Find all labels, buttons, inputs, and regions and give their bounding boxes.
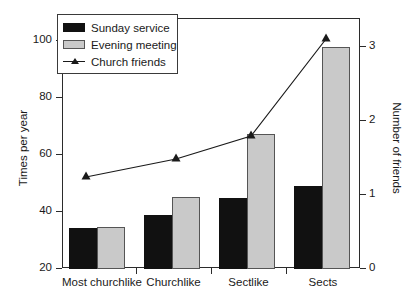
legend-label: Evening meeting bbox=[91, 39, 177, 51]
y-axis-right-tick-label: 0 bbox=[369, 262, 399, 274]
y-axis-right-tick bbox=[360, 46, 366, 47]
church-attendance-chart: Times per year Number of friends 100 80 … bbox=[0, 0, 417, 306]
y-axis-right-tick bbox=[360, 120, 366, 121]
x-axis-category-label: Churchlike bbox=[136, 276, 211, 288]
y-axis-right-tick-label: 3 bbox=[369, 40, 399, 52]
y-axis-left-tick-label: 60 bbox=[16, 148, 52, 160]
legend-label: Sunday service bbox=[91, 22, 170, 34]
y-axis-left-tick bbox=[56, 268, 62, 269]
bar-sunday-service bbox=[69, 228, 97, 269]
legend-item-evening-meeting: Evening meeting bbox=[63, 36, 172, 53]
y-axis-right-tick bbox=[360, 268, 366, 269]
x-axis-category-label: Most churchlike bbox=[62, 276, 136, 288]
y-axis-left-tick bbox=[56, 211, 62, 212]
y-axis-left-tick bbox=[56, 154, 62, 155]
x-axis-tick bbox=[286, 268, 287, 274]
y-axis-left-tick-label: 40 bbox=[16, 205, 52, 217]
x-axis-tick bbox=[136, 268, 137, 274]
bar-evening-meeting bbox=[172, 197, 200, 269]
y-axis-right-tick-label: 2 bbox=[369, 114, 399, 126]
y-axis-right-tick-label: 1 bbox=[369, 188, 399, 200]
x-axis-tick bbox=[211, 268, 212, 274]
bar-evening-meeting bbox=[322, 47, 350, 269]
y-axis-left-tick-label: 80 bbox=[16, 91, 52, 103]
legend-swatch-evening-meeting-icon bbox=[63, 40, 85, 49]
bar-sunday-service bbox=[294, 186, 322, 269]
y-axis-right-tick bbox=[360, 194, 366, 195]
bar-sunday-service bbox=[144, 215, 172, 269]
x-axis-category-label: Sectlike bbox=[211, 276, 286, 288]
y-axis-left-tick-label: 20 bbox=[16, 262, 52, 274]
x-axis-category-label: Sects bbox=[286, 276, 360, 288]
bar-sunday-service bbox=[219, 198, 247, 269]
y-axis-left-tick bbox=[56, 97, 62, 98]
y-axis-left-tick-label: 100 bbox=[16, 34, 52, 46]
legend-swatch-sunday-service-icon bbox=[63, 23, 85, 32]
legend-label: Church friends bbox=[91, 56, 166, 68]
chart-legend: Sunday service Evening meeting Church fr… bbox=[57, 14, 178, 74]
bar-evening-meeting bbox=[247, 134, 275, 269]
legend-item-sunday-service: Sunday service bbox=[63, 19, 172, 36]
bar-evening-meeting bbox=[97, 227, 125, 269]
legend-item-church-friends: Church friends bbox=[63, 53, 172, 70]
legend-swatch-church-friends-icon bbox=[63, 57, 85, 66]
